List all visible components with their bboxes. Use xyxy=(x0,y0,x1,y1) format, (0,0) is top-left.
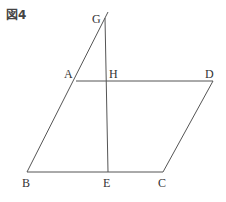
label-H: H xyxy=(109,67,118,81)
label-G: G xyxy=(92,12,101,26)
parallelogram-diagram: G A H D B E C xyxy=(0,0,226,202)
label-E: E xyxy=(103,176,110,190)
label-A: A xyxy=(64,67,73,81)
segment-GE xyxy=(105,18,108,172)
label-C: C xyxy=(158,176,166,190)
segment-DC xyxy=(163,81,213,172)
label-D: D xyxy=(205,67,214,81)
segment-GB xyxy=(27,12,108,172)
label-B: B xyxy=(22,176,30,190)
